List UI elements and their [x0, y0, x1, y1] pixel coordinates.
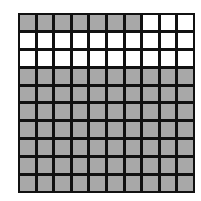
shaded-cell [161, 104, 176, 119]
shaded-cell [108, 104, 123, 119]
shaded-cell [73, 15, 88, 30]
unshaded-cell [161, 15, 176, 30]
unshaded-cell [178, 15, 193, 30]
shaded-cell [161, 140, 176, 155]
shaded-cell [108, 69, 123, 84]
shaded-cell [20, 104, 35, 119]
shaded-cell [38, 15, 53, 30]
shaded-cell [55, 104, 70, 119]
shaded-cell [55, 69, 70, 84]
unshaded-cell [108, 33, 123, 48]
shaded-cell [143, 122, 158, 137]
shaded-cell [73, 87, 88, 102]
unshaded-cell [55, 33, 70, 48]
shaded-cell [73, 104, 88, 119]
shaded-cell [73, 122, 88, 137]
shaded-cell [55, 140, 70, 155]
unshaded-cell [143, 15, 158, 30]
shaded-cell [20, 140, 35, 155]
unshaded-cell [161, 51, 176, 66]
shaded-cell [126, 15, 141, 30]
shaded-cell [20, 69, 35, 84]
unshaded-cell [178, 51, 193, 66]
shaded-cell [161, 69, 176, 84]
shaded-cell [90, 104, 105, 119]
shaded-cell [178, 122, 193, 137]
shaded-cell [161, 122, 176, 137]
shaded-cell [126, 140, 141, 155]
shaded-cell [20, 87, 35, 102]
unshaded-cell [90, 33, 105, 48]
shaded-cell [108, 140, 123, 155]
shaded-cell [108, 158, 123, 173]
shaded-cell [126, 69, 141, 84]
shaded-cell [143, 140, 158, 155]
unshaded-cell [108, 51, 123, 66]
shaded-cell [73, 176, 88, 191]
shaded-cell [20, 122, 35, 137]
shaded-cell [126, 104, 141, 119]
shaded-cell [178, 69, 193, 84]
shaded-cell [108, 15, 123, 30]
unshaded-cell [143, 51, 158, 66]
shaded-cell [20, 15, 35, 30]
shaded-cell [126, 176, 141, 191]
shaded-cell [73, 140, 88, 155]
shaded-cell [143, 158, 158, 173]
shaded-cell [143, 176, 158, 191]
shaded-cell [108, 87, 123, 102]
shaded-cell [38, 176, 53, 191]
shaded-cell [90, 140, 105, 155]
unshaded-cell [90, 51, 105, 66]
shaded-cell [55, 15, 70, 30]
shaded-cell [126, 158, 141, 173]
shaded-cell [178, 158, 193, 173]
shaded-cell [90, 69, 105, 84]
unshaded-cell [143, 33, 158, 48]
shaded-cell [143, 87, 158, 102]
unshaded-cell [178, 33, 193, 48]
shaded-cell [178, 176, 193, 191]
shaded-cell [73, 69, 88, 84]
shaded-cell [38, 158, 53, 173]
shaded-cell [161, 158, 176, 173]
unshaded-cell [73, 33, 88, 48]
unshaded-cell [38, 33, 53, 48]
unshaded-cell [161, 33, 176, 48]
shaded-cell [73, 158, 88, 173]
shaded-cell [108, 176, 123, 191]
shaded-cell [90, 87, 105, 102]
hundred-grid [18, 13, 195, 193]
shaded-cell [55, 176, 70, 191]
shaded-cell [38, 122, 53, 137]
unshaded-cell [20, 51, 35, 66]
unshaded-cell [55, 51, 70, 66]
shaded-cell [55, 122, 70, 137]
shaded-cell [126, 87, 141, 102]
shaded-cell [38, 104, 53, 119]
shaded-cell [20, 176, 35, 191]
shaded-cell [161, 87, 176, 102]
unshaded-cell [20, 33, 35, 48]
shaded-cell [90, 122, 105, 137]
shaded-cell [55, 87, 70, 102]
shaded-cell [178, 140, 193, 155]
shaded-cell [126, 122, 141, 137]
shaded-cell [55, 158, 70, 173]
shaded-cell [20, 158, 35, 173]
shaded-cell [38, 87, 53, 102]
unshaded-cell [38, 51, 53, 66]
shaded-cell [38, 69, 53, 84]
shaded-cell [108, 122, 123, 137]
unshaded-cell [73, 51, 88, 66]
shaded-cell [178, 87, 193, 102]
shaded-cell [90, 15, 105, 30]
shaded-cell [143, 69, 158, 84]
shaded-cell [143, 104, 158, 119]
shaded-cell [161, 176, 176, 191]
unshaded-cell [126, 33, 141, 48]
shaded-cell [178, 104, 193, 119]
shaded-cell [38, 140, 53, 155]
shaded-cell [90, 158, 105, 173]
unshaded-cell [126, 51, 141, 66]
